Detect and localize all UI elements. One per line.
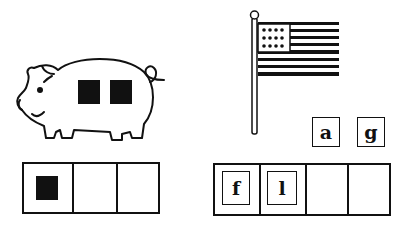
sound-boxes-flag: f l	[213, 163, 391, 216]
letter-tile-l[interactable]: l	[267, 171, 297, 205]
counter	[78, 80, 100, 104]
letter-tile-a[interactable]: a	[312, 117, 340, 147]
sound-box-3[interactable]	[307, 165, 349, 214]
sound-boxes-pig	[22, 162, 160, 214]
pig-illustration	[14, 52, 174, 144]
letter-tile-g[interactable]: g	[357, 117, 385, 147]
sound-box-2[interactable]	[74, 164, 118, 212]
sound-box-4[interactable]	[349, 165, 389, 214]
counter[interactable]	[36, 176, 58, 200]
counter	[110, 80, 132, 104]
letter-tile-f[interactable]: f	[222, 171, 250, 205]
sound-box-2[interactable]: l	[261, 165, 307, 214]
sound-box-3[interactable]	[118, 164, 158, 212]
sound-box-1[interactable]	[24, 164, 74, 212]
sound-box-1[interactable]: f	[215, 165, 261, 214]
